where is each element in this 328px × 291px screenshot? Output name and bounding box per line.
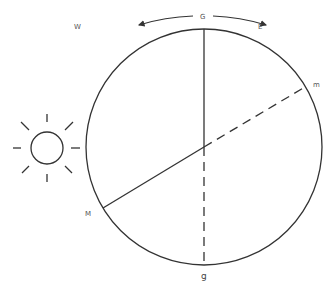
label-E: E xyxy=(258,23,262,31)
line-center-to-M xyxy=(103,147,204,208)
arrow-left-icon xyxy=(139,16,193,25)
line-center-to-m-dashed xyxy=(204,87,305,147)
label-G: G xyxy=(200,13,205,21)
label-m: m xyxy=(313,81,320,89)
diagram-canvas: G W E m M g xyxy=(0,0,328,291)
sun-icon xyxy=(13,114,80,182)
label-g: g xyxy=(201,271,207,281)
label-W: W xyxy=(74,23,81,31)
label-M: M xyxy=(85,210,91,218)
